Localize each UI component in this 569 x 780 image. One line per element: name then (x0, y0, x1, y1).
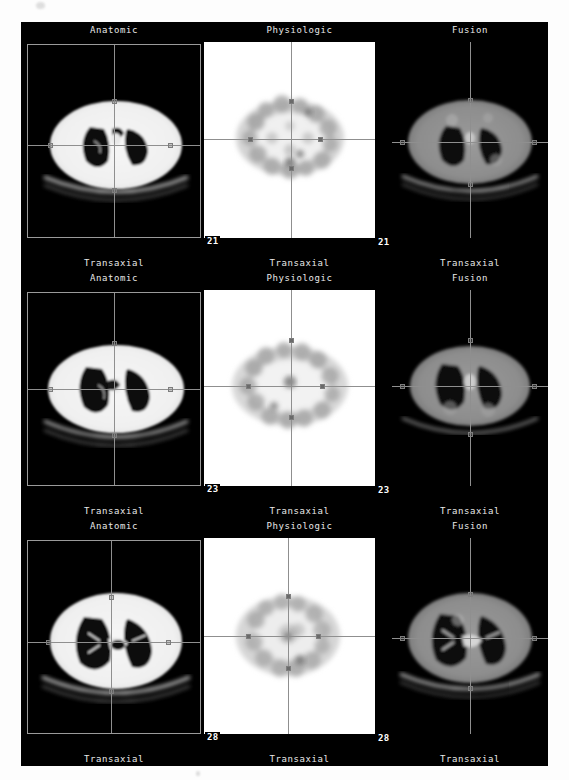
slice-row: Anatomic Physiologic Fusion (21, 22, 548, 270)
physiologic-pet-panel[interactable] (204, 538, 375, 734)
column-title-fusion: Fusion (392, 273, 548, 283)
orientation-label-physiologic: Transaxial (207, 754, 392, 764)
physiologic-pet-panel[interactable] (204, 290, 375, 486)
column-title-fusion: Fusion (392, 521, 548, 531)
column-title-fusion: Fusion (392, 25, 548, 35)
physiologic-pet-panel[interactable] (204, 42, 375, 238)
orientation-label-anatomic: Transaxial (21, 506, 207, 516)
fusion-panel[interactable] (392, 42, 548, 238)
slice-number-badge: 28 (205, 732, 220, 744)
scan-artifact-top-left (36, 2, 45, 9)
column-title-physiologic: Physiologic (207, 521, 392, 531)
fusion-viewer-canvas: Anatomic Physiologic Fusion (21, 22, 548, 766)
orientation-label-anatomic: Transaxial (21, 258, 207, 268)
ct-image (28, 45, 201, 238)
orientation-label-physiologic: Transaxial (207, 258, 392, 268)
fusion-image (392, 42, 548, 238)
anatomic-ct-panel[interactable] (27, 292, 201, 486)
slice-number-badge-right: 21 (378, 238, 389, 247)
pet-image (204, 290, 375, 486)
pet-image (204, 538, 375, 734)
pet-image (204, 42, 375, 238)
column-title-physiologic: Physiologic (207, 273, 392, 283)
slice-number-badge-right: 23 (378, 486, 389, 495)
column-title-anatomic: Anatomic (21, 25, 207, 35)
slice-number-badge: 21 (205, 236, 220, 248)
anatomic-ct-panel[interactable] (27, 44, 201, 238)
orientation-label-physiologic: Transaxial (207, 506, 392, 516)
scan-artifact-bottom (196, 771, 200, 776)
ct-image (28, 293, 201, 486)
column-title-anatomic: Anatomic (21, 273, 207, 283)
orientation-label-fusion: Transaxial (392, 754, 548, 764)
slice-number-badge-right: 28 (378, 734, 389, 743)
orientation-label-fusion: Transaxial (392, 258, 548, 268)
orientation-label-anatomic: Transaxial (21, 754, 207, 764)
orientation-label-fusion: Transaxial (392, 506, 548, 516)
slice-number-badge: 23 (205, 484, 220, 496)
column-title-physiologic: Physiologic (207, 25, 392, 35)
fusion-panel[interactable] (392, 538, 548, 734)
fusion-panel[interactable] (392, 290, 548, 486)
slice-row: Anatomic Physiologic Fusion (21, 270, 548, 518)
fusion-image (392, 538, 548, 734)
fusion-image (392, 290, 548, 486)
ct-image (28, 541, 201, 734)
anatomic-ct-panel[interactable] (27, 540, 201, 734)
slice-row: Anatomic Physiologic Fusion (21, 518, 548, 766)
column-title-anatomic: Anatomic (21, 521, 207, 531)
